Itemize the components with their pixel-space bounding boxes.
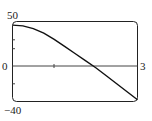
chart-plot <box>0 0 152 121</box>
y-zero-label: 0 <box>2 61 8 72</box>
plot-frame <box>13 22 138 102</box>
data-curve <box>13 25 138 100</box>
y-min-label: −40 <box>4 105 21 116</box>
x-max-label: 3 <box>140 61 146 72</box>
y-max-label: 50 <box>7 10 18 21</box>
